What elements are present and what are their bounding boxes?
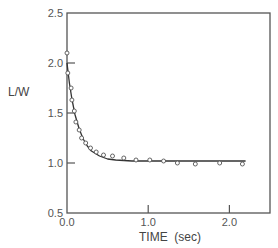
y-tick-label: 2.5: [48, 7, 63, 19]
x-tick-label: 1.0: [141, 216, 156, 228]
data-point: [77, 128, 81, 132]
y-tick-label: 1.0: [48, 157, 63, 169]
x-tick-label: 0.0: [59, 216, 74, 228]
data-point: [69, 86, 73, 90]
data-point: [218, 161, 222, 165]
data-markers: [65, 51, 244, 166]
y-tick-label: 1.5: [48, 107, 63, 119]
data-point: [102, 153, 106, 157]
data-point: [72, 109, 76, 113]
data-point: [65, 51, 69, 55]
data-point: [84, 141, 88, 145]
data-point: [240, 162, 244, 166]
axis-ticks: [67, 63, 229, 213]
data-point: [66, 71, 70, 75]
data-point: [89, 146, 93, 150]
chart: 0.51.01.52.02.50.01.02.0 L/W TIME (sec): [0, 0, 278, 248]
y-axis-title: L/W: [8, 85, 30, 99]
data-point: [162, 159, 166, 163]
fit-curve: [67, 63, 246, 161]
x-axis-title: TIME (sec): [139, 230, 201, 244]
data-point: [193, 162, 197, 166]
data-point: [80, 136, 84, 140]
x-tick-label: 2.0: [222, 216, 237, 228]
data-point: [134, 158, 138, 162]
data-point: [94, 150, 98, 154]
plot-frame: [67, 13, 270, 213]
data-point: [122, 156, 126, 160]
data-point: [148, 158, 152, 162]
fit-line: [67, 63, 246, 161]
data-point: [111, 154, 115, 158]
data-point: [74, 120, 78, 124]
data-point: [175, 161, 179, 165]
y-tick-label: 2.0: [48, 57, 63, 69]
data-point: [70, 98, 74, 102]
plot-border: [67, 13, 270, 213]
